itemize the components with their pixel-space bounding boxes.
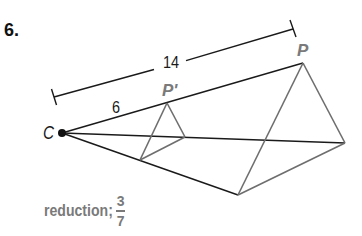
answer-type: reduction;	[44, 202, 113, 220]
dimension-label-14: 14	[163, 53, 179, 73]
dimension-label-6: 6	[112, 98, 120, 118]
fraction-numerator: 3	[117, 194, 125, 208]
point-label-p-prime: P'	[162, 81, 177, 101]
ray-to-right-vertex	[62, 133, 345, 143]
dimension-tick-right	[290, 20, 296, 37]
fraction-denominator: 7	[117, 214, 125, 228]
center-point	[58, 129, 66, 137]
ray-to-p	[62, 63, 303, 133]
original-triangle	[238, 63, 345, 195]
point-label-p: P	[297, 41, 308, 61]
answer-fraction: 3 7	[116, 194, 125, 228]
answer: reduction; 3 7	[44, 194, 125, 228]
point-label-c: C	[43, 123, 54, 144]
fraction-bar	[116, 210, 125, 212]
image-triangle	[140, 103, 185, 160]
ray-to-bottom-vertex	[62, 133, 238, 195]
